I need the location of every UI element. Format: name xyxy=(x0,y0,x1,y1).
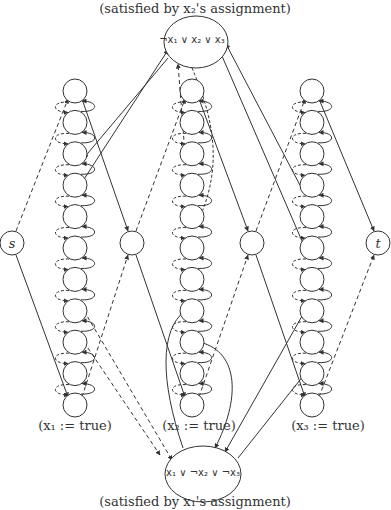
chain-edge-down xyxy=(172,259,186,269)
chain-edge-up xyxy=(318,258,332,268)
chain-edge-up xyxy=(198,132,212,142)
chain-node xyxy=(180,236,204,260)
chain-node xyxy=(300,330,324,354)
chain-edge-up xyxy=(318,227,332,237)
edge-c1-clause-top xyxy=(84,50,168,179)
chain-node xyxy=(300,110,324,134)
chain-node xyxy=(300,142,324,166)
chain-edge-down xyxy=(172,290,186,300)
chain-node xyxy=(300,267,324,291)
chain-edge-down xyxy=(55,228,69,238)
chain-edge-down xyxy=(292,228,306,238)
chain-edge-up xyxy=(198,352,212,362)
edge-s-bottom xyxy=(16,255,68,397)
chain-edge-down xyxy=(292,290,306,300)
chain-edge-down xyxy=(55,196,69,206)
chain-node xyxy=(300,205,324,229)
chain-edge-down xyxy=(172,228,186,238)
chain-edge-down xyxy=(172,165,186,175)
chain-node xyxy=(63,110,87,134)
edge-conn2-c3bot xyxy=(256,255,305,397)
chain-edge-down xyxy=(55,290,69,300)
chain-node xyxy=(300,79,324,103)
chain-edge-up xyxy=(81,132,95,142)
edge-clause-bottom-c3 xyxy=(238,374,305,458)
chain-edge-up xyxy=(318,164,332,174)
chain-edge-up xyxy=(198,384,212,394)
edge-s-top xyxy=(16,99,68,231)
chain-edge-up xyxy=(81,195,95,205)
chain-node xyxy=(63,142,87,166)
chain-node xyxy=(63,299,87,323)
reduction-graph: (satisfied by x₂'s assignment) (satisfie… xyxy=(0,0,391,510)
chain-edge-up xyxy=(81,227,95,237)
chain-edge-down xyxy=(292,353,306,363)
chain-node xyxy=(300,173,324,197)
chain-edge-up xyxy=(81,384,95,394)
chain-edge-up xyxy=(198,164,212,174)
chain-node xyxy=(180,362,204,386)
chain-edge-up xyxy=(198,227,212,237)
edge-clause-top-c3 xyxy=(226,44,300,185)
chain-edge-up xyxy=(198,289,212,299)
chain-edge-down xyxy=(172,353,186,363)
chain-edge-down xyxy=(292,102,306,112)
chain-edge-up xyxy=(318,132,332,142)
chain-edge-down xyxy=(292,133,306,143)
chain-edge-down xyxy=(172,196,186,206)
edge-c3bot-t xyxy=(319,255,374,397)
chain-node xyxy=(63,79,87,103)
edge-conn1-c2bot xyxy=(136,255,185,397)
chain-node xyxy=(300,299,324,323)
chain-node xyxy=(63,362,87,386)
chain-edge-up xyxy=(318,289,332,299)
chain-edge-down xyxy=(292,322,306,332)
chain-x1-label: (x₁ := true) xyxy=(38,418,112,433)
edge-c2bot-conn2 xyxy=(199,255,248,397)
chain-edge-down xyxy=(55,165,69,175)
chain-edge-down xyxy=(55,102,69,112)
source-label: s xyxy=(9,236,16,251)
chain-edge-down xyxy=(172,102,186,112)
bottom-caption: (satisfied by x₁'s assignment) xyxy=(99,494,291,509)
chain-edge-down xyxy=(55,322,69,332)
sink-label: t xyxy=(375,236,381,251)
edge-c1-clause-bottom xyxy=(84,311,172,460)
chain-node xyxy=(180,393,204,417)
chain-edge-down xyxy=(55,133,69,143)
chain-edge-up xyxy=(318,352,332,362)
chain-node xyxy=(180,173,204,197)
chain-edge-down xyxy=(292,259,306,269)
chain-node xyxy=(180,267,204,291)
chain-edge-up xyxy=(198,258,212,268)
chain-x2-label: (x₂ := true) xyxy=(162,418,236,433)
chain-edge-down xyxy=(292,196,306,206)
chain-edge-up xyxy=(81,258,95,268)
chain-node xyxy=(63,205,87,229)
chain-node xyxy=(63,267,87,291)
chain-edge-up xyxy=(318,195,332,205)
chain-node xyxy=(63,173,87,197)
edge-conn1-c2top xyxy=(136,99,185,231)
edge-conn2-c3top xyxy=(256,99,305,231)
chain-edge-down xyxy=(55,353,69,363)
chain-edge-up xyxy=(81,352,95,362)
chain-node xyxy=(180,330,204,354)
chain-edge-up xyxy=(81,289,95,299)
edge-clause-top-c1 xyxy=(84,58,168,158)
chain-node xyxy=(63,393,87,417)
chain-node xyxy=(180,299,204,323)
edge-c2-clause-top xyxy=(178,64,185,154)
chain-node xyxy=(63,330,87,354)
chain-node xyxy=(180,142,204,166)
chain-node xyxy=(180,110,204,134)
chain-node xyxy=(300,362,324,386)
chain-node xyxy=(300,236,324,260)
chain-edge-down xyxy=(55,259,69,269)
chain-edge-up xyxy=(318,321,332,331)
chain-node xyxy=(180,79,204,103)
connector-node-2 xyxy=(240,231,264,255)
chain-x3-label: (x₃ := true) xyxy=(291,418,365,433)
chain-edge-up xyxy=(198,321,212,331)
clause-bottom-label: x₁ ∨ ¬x₂ ∨ ¬x₃ xyxy=(166,467,240,478)
